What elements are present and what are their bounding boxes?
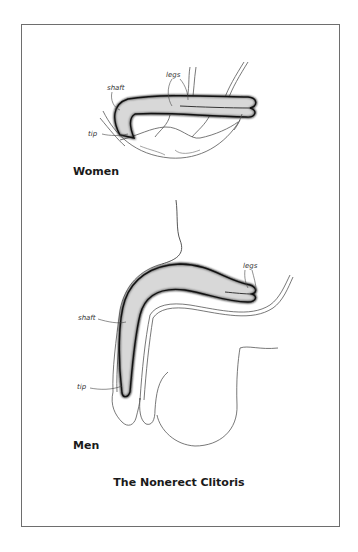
women-caption: Women	[73, 165, 119, 178]
men-shaft-label: shaft	[78, 314, 96, 322]
men-caption: Men	[73, 439, 99, 452]
illustration-canvas: shaft legs tip legs shaft tip	[0, 0, 358, 552]
women-shaft-label: shaft	[107, 84, 125, 92]
men-tip-label: tip	[77, 383, 87, 391]
women-legs-label: legs	[166, 71, 181, 79]
women-diagram: shaft legs tip	[88, 62, 256, 158]
men-legs-label: legs	[243, 262, 258, 270]
women-tip-label: tip	[88, 130, 98, 138]
figure-title: The Nonerect Clitoris	[0, 476, 358, 489]
men-diagram: legs shaft tip	[77, 200, 293, 446]
